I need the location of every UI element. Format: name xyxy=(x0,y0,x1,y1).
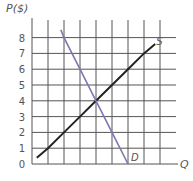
y-tick-label: 3 xyxy=(19,112,25,123)
demand-curve xyxy=(61,30,128,164)
demand-curve-label: D xyxy=(131,152,139,163)
y-tick-label: 5 xyxy=(19,80,25,91)
y-tick-label: 7 xyxy=(19,48,25,59)
y-axis-label: P($) xyxy=(6,2,28,15)
y-tick-label: 6 xyxy=(19,64,25,75)
chart-canvas: 012345678 P($) Q S D xyxy=(0,0,193,181)
supply-demand-chart: 012345678 P($) Q S D xyxy=(0,0,193,181)
y-tick-labels: 012345678 xyxy=(19,33,25,170)
x-axis-label: Q xyxy=(180,158,189,171)
supply-curve-label: S xyxy=(156,36,163,47)
y-tick-label: 8 xyxy=(19,33,25,44)
y-tick-label: 1 xyxy=(19,143,25,154)
y-tick-label: 2 xyxy=(19,127,25,138)
y-tick-label: 4 xyxy=(19,96,25,107)
y-tick-label: 0 xyxy=(19,159,25,170)
